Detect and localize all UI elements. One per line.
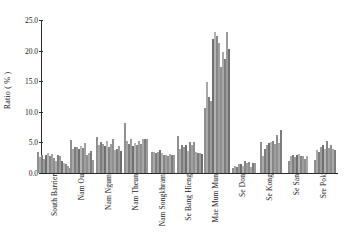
x-tick-label: Se Kong (265, 174, 274, 201)
x-tick-label-cell: Se Kong (256, 174, 283, 239)
y-tick-label: 20.0 (25, 46, 38, 55)
bar (92, 160, 94, 173)
x-tick-label: Sre Pok (319, 174, 328, 198)
x-tick-label-cell: South Barrier (41, 174, 68, 239)
x-tick-label-cell: Nam Songkhram (149, 174, 176, 239)
chart-figure: Ratio ( % ) 0.05.010.015.020.025.0 South… (0, 0, 347, 239)
x-tick-label: Se Bang Hieng (184, 174, 193, 221)
x-tick-label-cell: Se Bang Hieng (176, 174, 203, 239)
y-tick-label: 25.0 (25, 16, 38, 25)
y-axis-tick-labels: 0.05.010.015.020.025.0 (14, 0, 40, 239)
x-tick-label-cell: Se Don (229, 174, 256, 239)
y-tick-mark (39, 20, 43, 21)
x-tick-label-cell: Mae Mum Mun (202, 174, 229, 239)
plot-area (41, 20, 338, 174)
bar (146, 139, 148, 173)
y-tick-mark (39, 142, 43, 143)
x-tick-label: Mae Mum Mun (211, 174, 220, 223)
y-tick-mark (39, 51, 43, 52)
x-tick-label-cell: Se San (283, 174, 310, 239)
bar (201, 154, 203, 173)
x-tick-label: Nam Ngum (104, 174, 113, 210)
x-tick-label: South Barrier (50, 174, 59, 216)
x-tick-label: Nam Theun (131, 174, 140, 210)
bar (280, 130, 282, 173)
y-tick-label: 10.0 (25, 107, 38, 116)
y-tick-label: 5.0 (29, 138, 38, 147)
y-tick-label: 15.0 (25, 77, 38, 86)
x-tick-label: Se San (292, 174, 301, 195)
x-tick-label: Nam Ou (77, 174, 86, 200)
x-tick-label: Se Don (238, 174, 247, 197)
bar (120, 151, 122, 173)
x-tick-label-cell: Nam Ou (68, 174, 95, 239)
x-tick-label-cell: Nam Theun (122, 174, 149, 239)
bar (306, 156, 308, 173)
bar (228, 49, 230, 173)
bars-container (42, 20, 338, 173)
x-tick-label-cell: Nam Ngum (95, 174, 122, 239)
x-tick-label-cell: Sre Pok (310, 174, 337, 239)
bar (254, 163, 256, 173)
y-tick-mark (39, 81, 43, 82)
bar (334, 150, 336, 173)
y-tick-mark (39, 112, 43, 113)
bar (173, 155, 175, 173)
x-axis-tick-labels: South BarrierNam OuNam NgumNam TheunNam … (41, 174, 337, 239)
x-tick-label: Nam Songkhram (158, 174, 167, 226)
y-axis-label: Ratio ( % ) (4, 71, 13, 109)
